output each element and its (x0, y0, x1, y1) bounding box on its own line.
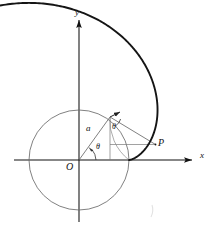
angle-label-origin: θ (96, 143, 100, 151)
point-P-marker (155, 144, 157, 146)
angle-arc-origin-tick (89, 147, 94, 152)
radius-length-label: a (86, 124, 91, 133)
x-axis-label: x (200, 151, 204, 160)
figure-canvas: y x O a θ θ P (0, 0, 214, 233)
point-P-label: P (158, 138, 164, 148)
scan-artifact (151, 205, 153, 217)
tangent-direction-arrow (110, 112, 120, 117)
angle-label-tangent: θ (112, 123, 116, 131)
tangent-segment (110, 117, 156, 145)
y-axis-label: y (75, 8, 79, 17)
origin-label: O (66, 162, 73, 172)
involute-diagram (0, 0, 214, 233)
